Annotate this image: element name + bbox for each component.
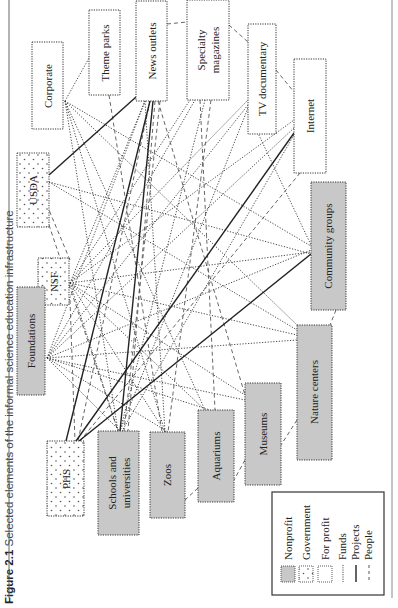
legend-label-funds: Funds bbox=[336, 533, 348, 560]
node-usda[interactable]: USDA bbox=[17, 153, 49, 227]
node-label: Foundations bbox=[25, 314, 37, 368]
node-tv-documentary[interactable]: TV documentary bbox=[248, 24, 276, 134]
node-phs[interactable]: PHS bbox=[47, 441, 84, 516]
legend-label-nonprofit: Nonprofit bbox=[282, 517, 294, 560]
legend-swatch-for-profit bbox=[318, 566, 332, 582]
legend-label-projects: Projects bbox=[349, 525, 361, 560]
node-schools-and-universities[interactable]: Schools and universities bbox=[98, 431, 139, 535]
node-zoos[interactable]: Zoos bbox=[150, 432, 185, 518]
node-foundations[interactable]: Foundations bbox=[17, 287, 45, 395]
node-news-outlets[interactable]: News outlets bbox=[136, 1, 167, 101]
node-label: USDA bbox=[27, 175, 39, 205]
node-aquariums[interactable]: Aquariums bbox=[198, 410, 234, 502]
node-label: Aquariums bbox=[210, 432, 222, 481]
node-community-groups[interactable]: Community groups bbox=[311, 182, 346, 310]
node-label-line1: Specialty bbox=[195, 29, 207, 70]
node-label: Theme parks bbox=[99, 24, 111, 81]
legend: Nonprofit Government For profit Funds Pr… bbox=[272, 492, 384, 595]
node-label: Nature centers bbox=[308, 360, 320, 424]
node-specialty-magazines[interactable]: Specialty magazines bbox=[187, 0, 229, 100]
legend-label-government: Government bbox=[300, 505, 312, 560]
node-label: Museums bbox=[257, 413, 269, 456]
node-label-line2: magazines bbox=[209, 27, 221, 73]
node-museums[interactable]: Museums bbox=[245, 383, 281, 485]
node-label: Zoos bbox=[161, 464, 173, 486]
node-label: TV documentary bbox=[256, 41, 268, 116]
node-label: Corporate bbox=[42, 64, 54, 108]
node-label: PHS bbox=[60, 469, 72, 489]
node-label: News outlets bbox=[146, 22, 158, 79]
legend-swatch-government bbox=[299, 566, 313, 582]
ecosystem-diagram: Corporate Theme parks News outlets Speci… bbox=[0, 0, 398, 608]
legend-label-for-profit: For profit bbox=[319, 518, 331, 560]
legend-swatch-nonprofit bbox=[281, 566, 295, 582]
node-internet[interactable]: Internet bbox=[294, 59, 326, 173]
node-nature-centers[interactable]: Nature centers bbox=[297, 325, 332, 460]
node-label: Internet bbox=[304, 99, 316, 133]
legend-label-people: People bbox=[362, 530, 374, 560]
node-corporate[interactable]: Corporate bbox=[32, 42, 63, 129]
node-label-line1: Schools and bbox=[106, 456, 118, 510]
node-theme-parks[interactable]: Theme parks bbox=[89, 10, 120, 95]
node-label: Community groups bbox=[322, 203, 334, 288]
node-label-line2: universities bbox=[120, 458, 132, 509]
node-label: NSF bbox=[48, 272, 60, 292]
